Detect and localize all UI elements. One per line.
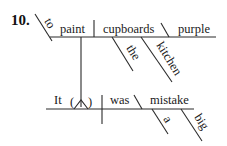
word-purple: purple bbox=[178, 22, 210, 36]
complement-slash bbox=[161, 23, 169, 37]
placeholder-close-paren: ) bbox=[88, 95, 92, 109]
exercise-number: 10. bbox=[11, 12, 30, 29]
word-mistake: mistake bbox=[150, 93, 189, 107]
diagram-lines: to paint cupboards purple the kitchen It… bbox=[0, 0, 227, 146]
sentence-diagram: 10. to paint cupboards purple the kitche… bbox=[0, 0, 227, 146]
word-cupboards: cupboards bbox=[103, 22, 155, 36]
placeholder-open-paren: ( bbox=[70, 95, 74, 109]
predicate-slash bbox=[134, 95, 142, 109]
word-a: a bbox=[160, 113, 175, 126]
word-kitchen: kitchen bbox=[153, 39, 185, 78]
word-it: It bbox=[54, 93, 62, 107]
word-was: was bbox=[110, 93, 130, 107]
word-paint: paint bbox=[60, 22, 86, 36]
